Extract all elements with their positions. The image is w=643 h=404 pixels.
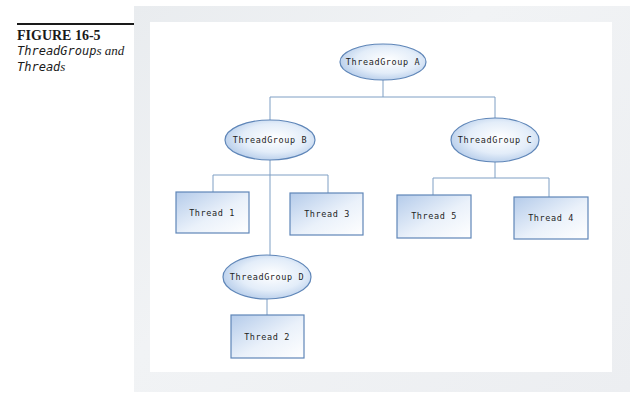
threadgroup-b-label: ThreadGroup B: [233, 135, 307, 145]
threadgroup-a-node: ThreadGroup A: [340, 44, 426, 80]
threadgroup-a-label: ThreadGroup A: [346, 57, 420, 67]
thread-5-label: Thread 5: [411, 211, 457, 221]
thread-2-label: Thread 2: [244, 332, 290, 342]
thread-1-node: Thread 1: [176, 192, 249, 233]
thread-5-node: Thread 5: [397, 195, 471, 238]
thread-1-label: Thread 1: [189, 208, 235, 218]
thread-2-node: Thread 2: [231, 315, 304, 358]
thread-tree-diagram: ThreadGroup A ThreadGroup B ThreadGroup …: [0, 0, 643, 404]
thread-4-label: Thread 4: [528, 213, 574, 223]
thread-3-node: Thread 3: [290, 193, 363, 235]
threadgroup-c-label: ThreadGroup C: [458, 135, 532, 145]
threadgroup-c-node: ThreadGroup C: [451, 118, 539, 162]
thread-3-label: Thread 3: [304, 209, 350, 219]
threadgroup-d-label: ThreadGroup D: [230, 272, 304, 282]
thread-4-node: Thread 4: [514, 197, 588, 239]
threadgroup-d-node: ThreadGroup D: [223, 255, 311, 299]
threadgroup-b-node: ThreadGroup B: [225, 120, 315, 160]
